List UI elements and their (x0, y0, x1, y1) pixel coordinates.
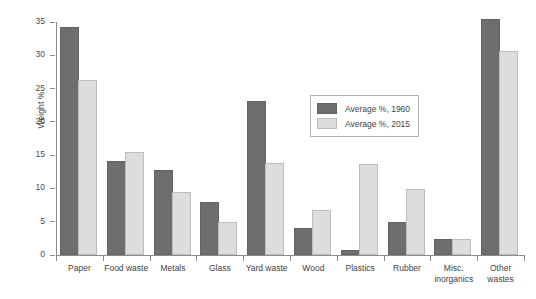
y-tick-mark (50, 121, 55, 122)
x-tick-mark (477, 256, 478, 261)
bar (265, 163, 284, 255)
bar (499, 51, 518, 255)
chart-legend: Average %, 1960 Average %, 2015 (310, 95, 419, 137)
bar (341, 250, 360, 255)
bar (388, 222, 407, 255)
y-tick-mark (50, 221, 55, 222)
x-tick-mark (243, 256, 244, 261)
legend-label-2015: Average %, 2015 (345, 119, 410, 129)
legend-item-1960: Average %, 1960 (317, 101, 410, 116)
bar-group (430, 22, 477, 255)
y-tick-label: 10 (0, 182, 45, 192)
bar (200, 202, 219, 255)
y-tick-mark (50, 188, 55, 189)
bar (452, 239, 471, 255)
x-tick-mark (384, 256, 385, 261)
x-category-label: Otherwastes (471, 263, 530, 284)
legend-swatch-1960 (317, 103, 337, 114)
y-tick-mark (50, 255, 55, 256)
legend-label-1960: Average %, 1960 (345, 104, 410, 114)
bar-group (290, 22, 337, 255)
bar-group (384, 22, 431, 255)
bar (125, 152, 144, 255)
bar (294, 228, 313, 255)
bar (359, 164, 378, 255)
bar-group (243, 22, 290, 255)
y-tick-label: 25 (0, 83, 45, 93)
x-tick-mark (56, 256, 57, 261)
y-tick-label: 35 (0, 16, 45, 26)
bar-group (477, 22, 524, 255)
bar (312, 210, 331, 255)
bar-group (196, 22, 243, 255)
bar (78, 80, 97, 255)
y-tick-mark (50, 22, 55, 23)
y-tick-label: 15 (0, 149, 45, 159)
y-tick-mark (50, 88, 55, 89)
bar-group (103, 22, 150, 255)
bar (434, 239, 453, 255)
bar (481, 19, 500, 255)
y-tick-mark (50, 55, 55, 56)
bar-group (337, 22, 384, 255)
y-tick-label: 0 (0, 249, 45, 259)
y-tick-label: 30 (0, 49, 45, 59)
bar (60, 27, 79, 255)
y-tick-label: 5 (0, 216, 45, 226)
bar-chart: Weight % 05101520253035 PaperFood wasteM… (0, 0, 536, 299)
bar (154, 170, 173, 255)
bar-group (56, 22, 103, 255)
bar (172, 192, 191, 255)
x-tick-mark (337, 256, 338, 261)
x-tick-mark (196, 256, 197, 261)
bar (107, 161, 126, 255)
bar (247, 101, 266, 255)
x-tick-mark (524, 256, 525, 261)
x-tick-mark (150, 256, 151, 261)
x-tick-mark (430, 256, 431, 261)
plot-area (56, 22, 524, 255)
x-tick-mark (290, 256, 291, 261)
legend-item-2015: Average %, 2015 (317, 116, 410, 131)
bar (406, 189, 425, 255)
y-tick-mark (50, 155, 55, 156)
y-tick-label: 20 (0, 116, 45, 126)
bar (218, 222, 237, 255)
legend-swatch-2015 (317, 118, 337, 129)
x-tick-mark (103, 256, 104, 261)
bar-group (150, 22, 197, 255)
